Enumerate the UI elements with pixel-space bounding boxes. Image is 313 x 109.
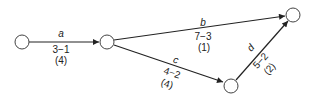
node-1 xyxy=(15,35,29,49)
edge-b-name: b xyxy=(200,17,206,28)
edge-b: b 7−3 (1) xyxy=(114,16,285,53)
edge-a-slack: (4) xyxy=(55,55,67,66)
edge-a: a 3−1 (4) xyxy=(29,28,99,66)
edge-b-slack: (1) xyxy=(198,42,210,53)
edge-b-duration: 7−3 xyxy=(195,31,212,42)
edge-d: d 5−2 (2) xyxy=(236,21,288,80)
edge-c-name: c xyxy=(172,54,180,66)
network-diagram: a 3−1 (4) b 7−3 (1) c 4−2 (4) d 5−2 (2) xyxy=(0,0,313,109)
edge-c-slack: (4) xyxy=(160,77,175,91)
node-3 xyxy=(286,8,300,22)
edge-a-name: a xyxy=(58,28,64,39)
edge-d-name: d xyxy=(244,42,256,54)
node-4 xyxy=(224,79,238,93)
node-2 xyxy=(100,35,114,49)
edge-a-duration: 3−1 xyxy=(53,44,70,55)
